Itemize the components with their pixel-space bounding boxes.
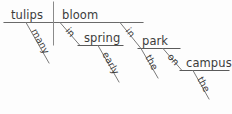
word-object-campus: campus [186,56,232,70]
word-preposition-in-1: in [63,25,77,39]
word-object-park: park [142,34,168,48]
diagram-canvas: tulips bloom many in spring early in par… [0,0,232,114]
word-preposition-in-2: in [123,25,137,39]
word-object-spring: spring [84,31,120,45]
word-modifier-the-1: the [143,53,160,72]
word-subject: tulips [11,8,43,22]
word-modifier-early: early [100,50,122,77]
word-modifier-the-2: the [195,75,212,94]
word-modifier-many: many [29,27,52,56]
sentence-diagram: tulips bloom many in spring early in par… [0,0,232,114]
word-verb: bloom [62,8,98,22]
